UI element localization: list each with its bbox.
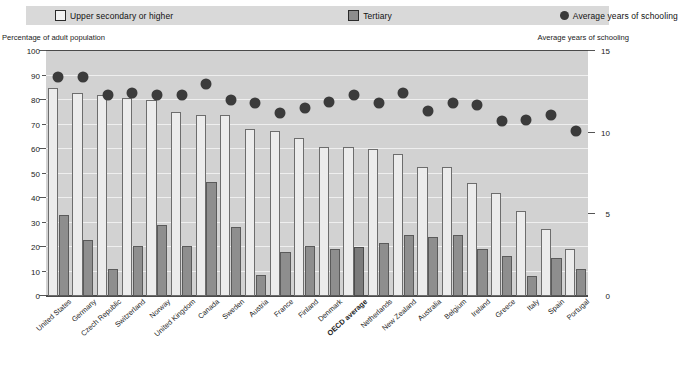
- data-point-avg-years: [127, 88, 138, 99]
- data-point-avg-years: [521, 114, 532, 125]
- legend-item-avg-years: Average years of schooling: [560, 11, 678, 21]
- legend-item-upper-secondary: Upper secondary or higher: [55, 10, 173, 21]
- bar-upper-secondary: [417, 167, 427, 296]
- x-axis-category-label: Canada: [196, 297, 221, 321]
- bar-upper-secondary: [343, 147, 353, 296]
- y-axis-tick-label: 70: [16, 120, 40, 129]
- x-axis-category-label: Belgium: [442, 297, 468, 321]
- bar-tertiary: [576, 269, 586, 296]
- y-axis-tick-mark: [39, 50, 46, 51]
- y-axis-tick-mark: [39, 99, 46, 100]
- bar-upper-secondary: [541, 229, 551, 296]
- x-axis-category-label: Ireland: [470, 297, 493, 319]
- y-axis-tick-mark: [42, 124, 46, 125]
- y-axis-tick-mark: [42, 75, 46, 76]
- bar-tertiary: [231, 227, 241, 296]
- bar-upper-secondary: [97, 95, 107, 296]
- bar-tertiary: [502, 256, 512, 296]
- y-axis-tick-label: 100: [16, 47, 40, 56]
- x-axis-category-label: Spain: [546, 297, 566, 316]
- x-axis-category-label: United States: [35, 297, 74, 333]
- bar-upper-secondary: [72, 93, 82, 296]
- filled-circle-icon: [560, 11, 569, 20]
- y-axis-tick-label: 10: [16, 267, 40, 276]
- y-axis-tick-mark: [39, 197, 46, 198]
- y2-axis-tick-label: 5: [606, 210, 610, 219]
- bar-tertiary: [527, 276, 537, 296]
- bar-upper-secondary: [467, 183, 477, 296]
- data-point-avg-years: [398, 88, 409, 99]
- bar-tertiary: [551, 258, 561, 296]
- bar-upper-secondary: [146, 100, 156, 296]
- data-point-avg-years: [472, 99, 483, 110]
- bar-upper-secondary: [48, 88, 58, 296]
- y-axis-tick-label: 0: [16, 292, 40, 301]
- bar-tertiary: [280, 252, 290, 296]
- data-point-avg-years: [225, 95, 236, 106]
- bar-upper-secondary: [565, 249, 575, 296]
- bar-upper-secondary: [319, 147, 329, 296]
- data-point-avg-years: [324, 96, 335, 107]
- data-point-avg-years: [447, 98, 458, 109]
- bar-upper-secondary: [393, 154, 403, 296]
- bar-tertiary: [453, 235, 463, 296]
- bar-upper-secondary: [220, 115, 230, 296]
- data-point-avg-years: [422, 106, 433, 117]
- y2-axis-tick-label: 15: [601, 47, 610, 56]
- data-point-avg-years: [151, 90, 162, 101]
- data-point-avg-years: [546, 109, 557, 120]
- data-point-avg-years: [348, 90, 359, 101]
- data-point-avg-years: [102, 90, 113, 101]
- filled-square-icon: [348, 10, 359, 21]
- data-point-avg-years: [299, 103, 310, 114]
- bar-tertiary: [133, 246, 143, 296]
- bar-tertiary: [379, 243, 389, 296]
- y-axis-tick-label: 30: [16, 218, 40, 227]
- y-axis-tick-mark: [42, 271, 46, 272]
- bar-tertiary: [256, 275, 266, 296]
- bar-tertiary: [477, 249, 487, 296]
- bar-tertiary: [305, 246, 315, 296]
- gridline: [46, 75, 588, 76]
- data-point-avg-years: [373, 98, 384, 109]
- y2-axis-tick-mark: [588, 50, 595, 51]
- y-axis-tick-label: 90: [16, 71, 40, 80]
- bar-upper-secondary: [270, 131, 280, 296]
- legend-label: Upper secondary or higher: [70, 11, 173, 21]
- y-axis-tick-label: 60: [16, 145, 40, 154]
- open-square-icon: [55, 10, 66, 21]
- left-axis-caption: Percentage of adult population: [2, 33, 105, 42]
- x-axis-category-label: Australia: [416, 297, 443, 323]
- y2-axis-tick-mark: [588, 213, 595, 214]
- y-axis-tick-label: 80: [16, 96, 40, 105]
- y-axis-tick-label: 20: [16, 243, 40, 252]
- bar-upper-secondary: [442, 167, 452, 296]
- legend-item-tertiary: Tertiary: [348, 10, 392, 21]
- data-point-avg-years: [77, 72, 88, 83]
- bar-upper-secondary: [294, 138, 304, 296]
- bar-upper-secondary: [196, 115, 206, 296]
- y2-axis-tick-mark: [588, 132, 595, 133]
- bar-tertiary: [330, 249, 340, 296]
- right-axis-caption: Average years of schooling: [538, 33, 629, 42]
- bar-upper-secondary: [491, 193, 501, 296]
- x-axis-category-label: France: [272, 297, 295, 319]
- bar-tertiary: [83, 240, 93, 296]
- y2-axis-tick-label: 10: [601, 128, 610, 137]
- data-point-avg-years: [201, 78, 212, 89]
- y-axis-tick-mark: [42, 173, 46, 174]
- bar-tertiary: [108, 269, 118, 296]
- y-axis-tick-mark: [39, 148, 46, 149]
- bar-upper-secondary: [171, 112, 181, 296]
- bar-upper-secondary: [516, 211, 526, 296]
- y2-axis-tick-label: 0: [606, 292, 610, 301]
- legend-label: Average years of schooling: [573, 11, 678, 21]
- x-axis-category-label: Greece: [493, 297, 517, 320]
- bar-tertiary: [59, 215, 69, 296]
- bar-upper-secondary: [368, 149, 378, 296]
- bar-tertiary: [206, 182, 216, 296]
- y-axis-tick-mark: [39, 246, 46, 247]
- data-point-avg-years: [53, 72, 64, 83]
- data-point-avg-years: [176, 90, 187, 101]
- bar-tertiary: [404, 235, 414, 296]
